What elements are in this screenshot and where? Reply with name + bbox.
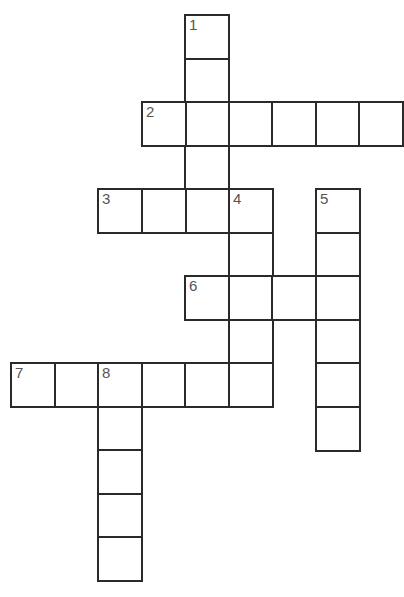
- crossword-cell[interactable]: [97, 406, 143, 452]
- crossword-cell[interactable]: [97, 536, 143, 582]
- clue-number: 5: [320, 191, 328, 206]
- crossword-cell[interactable]: [141, 188, 187, 234]
- crossword-cell[interactable]: [315, 362, 361, 408]
- crossword-cell[interactable]: [228, 362, 274, 408]
- crossword-grid: 12345678: [0, 0, 404, 597]
- crossword-cell[interactable]: [271, 101, 317, 147]
- crossword-cell[interactable]: [184, 362, 230, 408]
- crossword-cell[interactable]: [184, 188, 230, 234]
- clue-number: 4: [233, 191, 241, 206]
- clue-number: 2: [146, 104, 154, 119]
- crossword-cell[interactable]: 5: [315, 188, 361, 234]
- crossword-cell[interactable]: 6: [184, 275, 230, 321]
- crossword-cell[interactable]: 4: [228, 188, 274, 234]
- clue-number: 8: [102, 365, 110, 380]
- crossword-cell[interactable]: [315, 319, 361, 365]
- crossword-cell[interactable]: [97, 493, 143, 539]
- crossword-cell[interactable]: 3: [97, 188, 143, 234]
- crossword-cell[interactable]: 7: [10, 362, 56, 408]
- clue-number: 6: [189, 278, 197, 293]
- crossword-cell[interactable]: [315, 406, 361, 452]
- crossword-cell[interactable]: [54, 362, 100, 408]
- crossword-cell[interactable]: 1: [184, 14, 230, 60]
- crossword-cell[interactable]: [315, 275, 361, 321]
- crossword-cell[interactable]: [184, 58, 230, 104]
- crossword-cell[interactable]: [315, 232, 361, 278]
- crossword-cell[interactable]: [228, 319, 274, 365]
- crossword-cell[interactable]: 2: [141, 101, 187, 147]
- crossword-cell[interactable]: [358, 101, 404, 147]
- crossword-cell[interactable]: [228, 232, 274, 278]
- clue-number: 7: [15, 365, 23, 380]
- crossword-cell[interactable]: [184, 145, 230, 191]
- crossword-cell[interactable]: [271, 275, 317, 321]
- crossword-cell[interactable]: [97, 449, 143, 495]
- crossword-cell[interactable]: [315, 101, 361, 147]
- crossword-cell[interactable]: [228, 101, 274, 147]
- crossword-cell[interactable]: [228, 275, 274, 321]
- crossword-cell[interactable]: [141, 362, 187, 408]
- clue-number: 1: [189, 17, 197, 32]
- crossword-cell[interactable]: [184, 101, 230, 147]
- crossword-cell[interactable]: 8: [97, 362, 143, 408]
- clue-number: 3: [102, 191, 110, 206]
